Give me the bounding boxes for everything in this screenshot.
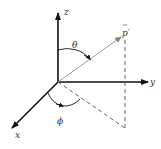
phi-label: ϕ [57,116,63,126]
vector-p-prime [58,37,121,82]
vector-p-prime-label: p′ [122,28,130,38]
vector-arrow-accent: → [122,21,127,28]
diagram-svg: z y x θ ϕ → p′ [0,0,161,149]
z-axis-label: z [63,7,69,17]
theta-arc [58,49,90,59]
x-axis [12,82,58,128]
phi-arc [48,93,80,106]
dashed-xy-projection [58,82,125,128]
y-axis-label: y [149,77,156,87]
x-axis-label: x [15,130,20,140]
theta-label: θ [72,40,78,50]
spherical-coordinates-diagram: z y x θ ϕ → p′ [0,0,161,149]
